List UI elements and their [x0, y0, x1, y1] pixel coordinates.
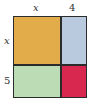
horizontal-divider [13, 64, 87, 66]
top-label-4: 4 [69, 3, 75, 13]
side-label-x: x [4, 36, 10, 46]
vertical-divider [60, 16, 62, 98]
top-label-x: x [33, 3, 39, 13]
side-label-5: 5 [4, 76, 10, 86]
outer-frame [13, 16, 87, 98]
